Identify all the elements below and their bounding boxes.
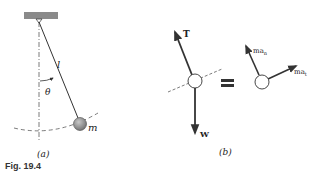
normal-accel-label: man bbox=[253, 47, 268, 56]
angle-arc-arrow bbox=[40, 78, 53, 81]
panel-a-label: (a) bbox=[37, 149, 50, 159]
pendulum-rod bbox=[39, 22, 78, 118]
pendulum-bob bbox=[74, 118, 87, 131]
length-label: l bbox=[57, 59, 60, 70]
panel-a: l θ m (a) bbox=[14, 12, 98, 159]
panel-b-label: (b) bbox=[219, 147, 232, 157]
ceiling-support bbox=[24, 12, 58, 19]
equals-sign bbox=[221, 79, 234, 87]
particle-circle bbox=[188, 74, 202, 88]
angle-label: θ bbox=[45, 87, 51, 97]
figure-19-4: l θ m (a) Fig. 19.4 T W man mat (b) bbox=[0, 0, 320, 179]
tangential-accel-label: mat bbox=[294, 68, 307, 77]
figure-caption: Fig. 19.4 bbox=[5, 161, 41, 171]
tension-label: T bbox=[183, 29, 190, 39]
panel-b: T W man mat (b) bbox=[168, 29, 307, 157]
mass-label: m bbox=[88, 122, 97, 133]
particle-circle-right bbox=[255, 75, 269, 89]
tangential-accel-arrow bbox=[268, 66, 296, 79]
weight-label: W bbox=[199, 129, 210, 139]
